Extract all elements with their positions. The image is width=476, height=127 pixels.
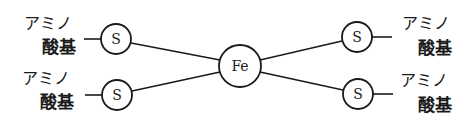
s-node-bottom-right: S — [343, 79, 373, 109]
bond-top-right — [260, 41, 342, 60]
s-label: S — [353, 86, 363, 102]
s-node-top-left: S — [101, 24, 131, 54]
fe-label: Fe — [231, 58, 248, 74]
amino-label-bottom-right-line2: 酸基 — [418, 95, 453, 115]
amino-label-bottom-right-line1: アミノ — [400, 71, 448, 90]
s-node-top-right: S — [342, 22, 372, 52]
s-node-bottom-left: S — [102, 80, 132, 110]
amino-label-top-left-line1: アミノ — [24, 14, 72, 33]
amino-label-top-left-line2: 酸基 — [42, 37, 77, 57]
iron-sulfur-diagram: Fe S S S S アミノ 酸基 アミノ 酸基 アミノ 酸基 アミノ 酸基 — [0, 0, 476, 127]
amino-label-top-right-line2: 酸基 — [418, 38, 453, 58]
amino-label-top-right-line1: アミノ — [402, 14, 450, 33]
s-label: S — [352, 29, 362, 45]
bond-bottom-left — [132, 72, 220, 91]
bond-top-left — [131, 43, 220, 60]
s-label: S — [111, 31, 121, 47]
bond-bottom-right — [260, 72, 343, 90]
amino-label-bottom-left-line2: 酸基 — [40, 92, 75, 112]
amino-label-bottom-left-line1: アミノ — [22, 69, 70, 88]
fe-node: Fe — [219, 45, 261, 87]
s-label: S — [112, 87, 122, 103]
